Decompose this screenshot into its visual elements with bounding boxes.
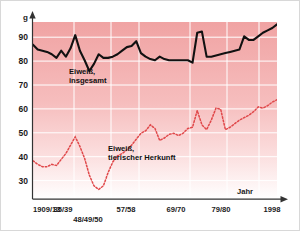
- y-tick-label-60: 60: [19, 104, 29, 114]
- y-tick-label-80: 80: [19, 56, 29, 66]
- y-tick-label-70: 70: [19, 80, 29, 90]
- annotation-animal-protein-line2: tierischer Herkunft: [108, 153, 176, 162]
- x-axis-title: Jahr: [237, 187, 253, 196]
- x-tick-label-79-80: 79/80: [211, 205, 230, 214]
- x-tick-label-48-49-50: 48/49/50: [73, 215, 103, 224]
- annotation-total-protein-line1: Eiweiß,: [69, 67, 95, 76]
- protein-consumption-line-chart: g 90 80 70 60 50 40 30 1909/13 35/39 48/…: [0, 0, 300, 231]
- x-tick-label-69-70: 69/70: [166, 205, 185, 214]
- x-tick-label-1998: 1998: [264, 205, 281, 214]
- chart-container: g 90 80 70 60 50 40 30 1909/13 35/39 48/…: [0, 0, 300, 231]
- x-tick-label-35-39: 35/39: [53, 205, 72, 214]
- y-tick-label-30: 30: [19, 176, 29, 186]
- annotation-animal-protein-line1: Eiweiß,: [108, 144, 134, 153]
- y-tick-label-40: 40: [19, 152, 29, 162]
- annotation-total-protein-line2: insgesamt: [69, 76, 107, 85]
- y-axis-unit-label: g: [23, 13, 28, 22]
- y-tick-label-90: 90: [19, 32, 29, 42]
- y-tick-label-50: 50: [19, 128, 29, 138]
- x-tick-label-57-58: 57/58: [116, 205, 135, 214]
